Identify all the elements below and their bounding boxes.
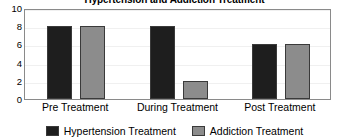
x-tick-label: Pre Treatment bbox=[24, 101, 126, 113]
bar[interactable] bbox=[285, 44, 310, 99]
legend-item[interactable]: Addiction Treatment bbox=[192, 125, 303, 137]
bar[interactable] bbox=[183, 81, 208, 99]
y-tick-label: 6 bbox=[2, 40, 22, 50]
legend-swatch-icon bbox=[192, 126, 205, 136]
bar[interactable] bbox=[252, 44, 277, 99]
x-tick-label: Post Treatment bbox=[229, 101, 331, 113]
x-tick-label: During Treatment bbox=[126, 101, 228, 113]
bar-chart-screenshot: Hypertension and Addiction Treatment 024… bbox=[0, 0, 349, 140]
bar[interactable] bbox=[150, 26, 175, 99]
bar[interactable] bbox=[80, 26, 105, 99]
legend-label: Hypertension Treatment bbox=[64, 125, 176, 137]
y-tick-label: 0 bbox=[2, 95, 22, 105]
chart-legend: Hypertension TreatmentAddiction Treatmen… bbox=[0, 125, 349, 137]
legend-swatch-icon bbox=[46, 126, 59, 136]
y-tick-label: 8 bbox=[2, 22, 22, 32]
y-tick-label: 10 bbox=[2, 4, 22, 14]
plot-area bbox=[24, 9, 331, 100]
legend-item[interactable]: Hypertension Treatment bbox=[46, 125, 176, 137]
bar-group-container bbox=[25, 10, 330, 99]
chart-title: Hypertension and Addiction Treatment bbox=[0, 0, 349, 5]
x-axis-labels: Pre TreatmentDuring TreatmentPost Treatm… bbox=[24, 101, 331, 116]
y-tick-label: 4 bbox=[2, 59, 22, 69]
legend-label: Addiction Treatment bbox=[210, 125, 303, 137]
y-tick-label: 2 bbox=[2, 77, 22, 87]
bar[interactable] bbox=[47, 26, 72, 99]
y-axis: 0246810 bbox=[0, 9, 22, 100]
